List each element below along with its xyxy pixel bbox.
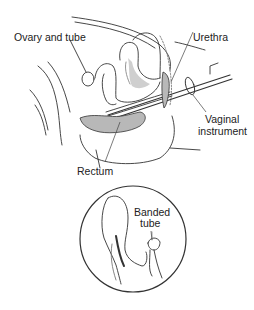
label-banded-tube-line2: tube (140, 217, 160, 229)
label-urethra: Urethra (193, 31, 228, 43)
label-vaginal-instrument-line1: Vaginal (205, 113, 239, 125)
anatomy-illustration (0, 0, 254, 310)
label-ovary-and-tube: Ovary and tube (14, 31, 86, 43)
label-rectum: Rectum (77, 165, 113, 177)
label-vaginal-instrument-line2: instrument (198, 125, 247, 137)
